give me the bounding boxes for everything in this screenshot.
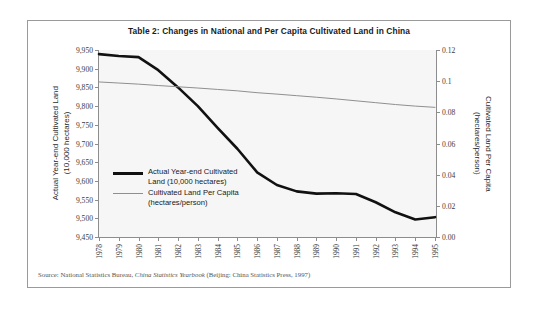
x-tick-label: 1978 [95, 244, 104, 259]
source-prefix: Source: National Statistics Bureau, [38, 271, 135, 278]
left-tick-mark [95, 162, 99, 163]
x-tick-mark [178, 237, 179, 241]
x-tick-mark [158, 237, 159, 241]
x-tick-label: 1993 [391, 244, 400, 259]
x-tick-mark [218, 237, 219, 241]
right-axis-title: Cultivated Land Per Capita (hectares/per… [462, 50, 502, 237]
left-tick-mark [95, 144, 99, 145]
x-tick-mark [99, 237, 100, 241]
left-tick-mark [95, 106, 99, 107]
x-tick-mark [395, 237, 396, 241]
list-item: Actual Year-end Cultivated Land (10,000 … [113, 167, 239, 187]
left-tick-mark [95, 200, 99, 201]
x-tick-mark [415, 237, 416, 241]
x-tick-label: 1992 [372, 244, 381, 259]
x-tick-label: 1989 [312, 244, 321, 259]
x-tick-label: 1995 [431, 244, 440, 259]
x-tick-mark [316, 237, 317, 241]
x-tick-mark [237, 237, 238, 241]
right-tick-mark [436, 237, 440, 238]
x-tick-mark [435, 237, 436, 241]
legend-swatch-cultivated-land [113, 172, 143, 175]
x-tick-label: 1979 [115, 244, 124, 259]
x-tick-mark [119, 237, 120, 241]
source-publication: China Statistics Yearbook [135, 271, 205, 278]
x-tick-mark [139, 237, 140, 241]
right-tick-mark [436, 81, 440, 82]
legend-label: Actual Year-end Cultivated Land (10,000 … [148, 167, 238, 187]
left-axis-title-text: Actual Year-end Cultivated Land (10,000 … [51, 86, 73, 200]
plot-area: 9,9509,9009,8509,8009,7509,7009,6509,600… [98, 50, 437, 238]
x-tick-label: 1984 [214, 244, 223, 259]
left-tick-mark [95, 181, 99, 182]
x-tick-label: 1980 [135, 244, 144, 259]
legend-label: Cultivated Land Per Capita (hectares/per… [148, 188, 239, 208]
left-tick-mark [95, 69, 99, 70]
x-tick-mark [297, 237, 298, 241]
right-tick-mark [436, 112, 440, 113]
legend-swatch-per-capita [113, 193, 143, 194]
x-tick-mark [356, 237, 357, 241]
x-tick-label: 1988 [293, 244, 302, 259]
x-tick-label: 1991 [352, 244, 361, 259]
left-tick-mark [95, 87, 99, 88]
chart-legend: Actual Year-end Cultivated Land (10,000 … [109, 162, 245, 212]
figure-panel: Table 2: Changes in National and Per Cap… [27, 20, 511, 288]
x-tick-mark [336, 237, 337, 241]
source-note: Source: National Statistics Bureau, Chin… [38, 271, 310, 278]
x-tick-label: 1985 [233, 244, 242, 259]
right-tick-mark [436, 206, 440, 207]
left-tick-mark [95, 125, 99, 126]
source-suffix: (Beijing: China Statistics Press, 1997) [205, 271, 310, 278]
page-title: Table 2: Changes in National and Per Cap… [28, 26, 510, 36]
left-tick-mark [95, 50, 99, 51]
right-tick-mark [436, 175, 440, 176]
right-tick-mark [436, 50, 440, 51]
left-tick-mark [95, 218, 99, 219]
x-tick-mark [376, 237, 377, 241]
x-tick-mark [277, 237, 278, 241]
x-tick-label: 1986 [253, 244, 262, 259]
series-line [99, 82, 435, 107]
x-tick-label: 1987 [273, 244, 282, 259]
x-tick-label: 1981 [154, 244, 163, 259]
x-tick-label: 1994 [411, 244, 420, 259]
right-tick-mark [436, 144, 440, 145]
x-tick-label: 1982 [174, 244, 183, 259]
list-item: Cultivated Land Per Capita (hectares/per… [113, 188, 239, 208]
x-tick-label: 1990 [332, 244, 341, 259]
right-axis-title-text: Cultivated Land Per Capita (hectares/per… [471, 96, 493, 192]
x-tick-label: 1983 [194, 244, 203, 259]
x-tick-mark [198, 237, 199, 241]
x-tick-mark [257, 237, 258, 241]
